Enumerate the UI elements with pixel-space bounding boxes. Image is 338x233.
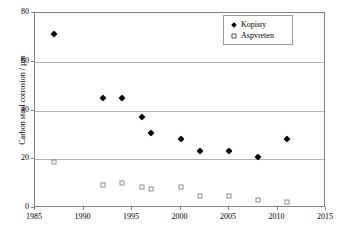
filled-diamond-icon — [229, 20, 238, 29]
x-tick-label-1990: 1990 — [66, 213, 100, 221]
data-point-aspvreten-1997 — [149, 186, 154, 191]
x-tick-mark-2015 — [325, 207, 326, 210]
data-point-kopisty-2005 — [225, 148, 232, 155]
y-tick-mark-80 — [31, 12, 34, 13]
y-tick-label-0: 0 — [3, 203, 29, 211]
data-point-kopisty-1992 — [99, 95, 106, 102]
gridline-20 — [35, 159, 324, 160]
x-tick-mark-1995 — [131, 207, 132, 210]
gridline-40 — [35, 111, 324, 112]
data-point-aspvreten-2002 — [197, 193, 202, 198]
data-point-kopisty-1997 — [148, 129, 155, 136]
data-point-aspvreten-2008 — [256, 197, 261, 202]
legend-label: Aspvreten — [241, 31, 274, 40]
open-square-icon — [229, 31, 238, 40]
x-tick-mark-2010 — [277, 207, 278, 210]
gridline-60 — [35, 62, 324, 63]
legend-item-aspvreten: Aspvreten — [229, 30, 288, 41]
data-point-kopisty-1996 — [138, 113, 145, 120]
chart-legend: Kopisty Aspvreten — [223, 15, 293, 45]
y-tick-label-60: 60 — [3, 57, 29, 65]
x-tick-mark-2000 — [180, 207, 181, 210]
x-tick-label-2010: 2010 — [260, 213, 294, 221]
x-tick-mark-1990 — [83, 207, 84, 210]
x-tick-label-2000: 2000 — [163, 213, 197, 221]
x-tick-label-1985: 1985 — [17, 213, 51, 221]
data-point-aspvreten-2011 — [285, 200, 290, 205]
data-point-kopisty-2000 — [177, 135, 184, 142]
data-point-aspvreten-1996 — [139, 184, 144, 189]
data-point-kopisty-2002 — [196, 147, 203, 154]
data-point-aspvreten-2005 — [227, 193, 232, 198]
x-tick-label-2005: 2005 — [211, 213, 245, 221]
x-tick-mark-1985 — [34, 207, 35, 210]
x-tick-mark-2005 — [228, 207, 229, 210]
y-tick-label-40: 40 — [3, 106, 29, 114]
x-tick-label-2015: 2015 — [308, 213, 338, 221]
data-point-aspvreten-1994 — [120, 181, 125, 186]
x-tick-label-1995: 1995 — [114, 213, 148, 221]
data-point-aspvreten-1992 — [100, 183, 105, 188]
y-tick-label-80: 80 — [3, 8, 29, 16]
chart-container: Carbon steel corrosion / µm 020406080 19… — [0, 0, 338, 233]
y-tick-mark-60 — [31, 61, 34, 62]
y-tick-mark-40 — [31, 110, 34, 111]
y-tick-label-20: 20 — [3, 154, 29, 162]
data-point-kopisty-1987 — [51, 30, 58, 37]
data-point-kopisty-1994 — [119, 94, 126, 101]
data-point-aspvreten-2000 — [178, 184, 183, 189]
legend-item-kopisty: Kopisty — [229, 19, 288, 30]
y-tick-mark-20 — [31, 158, 34, 159]
legend-label: Kopisty — [241, 20, 266, 29]
data-point-kopisty-2011 — [284, 135, 291, 142]
